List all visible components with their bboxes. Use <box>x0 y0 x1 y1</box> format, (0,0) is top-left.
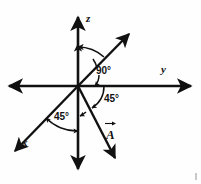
axis-label-y: y <box>161 64 166 75</box>
upper-right-diagonal-ray <box>78 34 129 86</box>
vector-label-a: A <box>106 125 115 141</box>
angle-label-90: 90° <box>96 66 111 76</box>
angle-label-45-right: 45° <box>104 94 119 104</box>
vector-arrow-overbar-icon <box>105 121 116 126</box>
vector-letter: A <box>106 125 115 141</box>
axis-label-x: x <box>22 137 28 148</box>
angle-label-45-left: 45° <box>54 112 69 122</box>
coordinate-axes-figure: z y x 90° 45° 45° A <box>0 0 201 184</box>
axes-drawing <box>0 0 201 184</box>
axis-label-z: z <box>86 13 90 24</box>
corner-artifact-mark <box>195 173 197 180</box>
